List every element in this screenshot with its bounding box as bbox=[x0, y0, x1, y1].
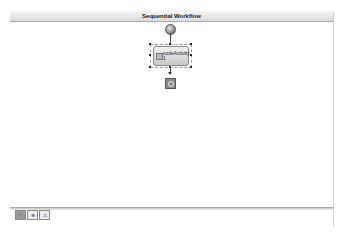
resize-handle[interactable] bbox=[190, 66, 192, 68]
resize-handle[interactable] bbox=[149, 43, 151, 45]
view-fault-handlers-button[interactable]: ⚠ bbox=[39, 210, 50, 220]
code-activity[interactable]: codeActivity 1 bbox=[153, 46, 189, 66]
right-border bbox=[333, 11, 334, 226]
activity-name-line2: 1 bbox=[163, 55, 166, 61]
activity-name-line1: codeActivity bbox=[163, 50, 190, 56]
activity-label: codeActivity 1 bbox=[163, 51, 190, 61]
view-workflow-button[interactable]: ⁞ bbox=[15, 210, 26, 220]
view-switcher: ⁞ ⊗ ⚠ bbox=[15, 210, 50, 220]
code-activity-icon bbox=[156, 53, 163, 60]
connector-arrow-icon bbox=[168, 72, 172, 75]
resize-handle[interactable] bbox=[149, 54, 151, 56]
resize-handle[interactable] bbox=[149, 66, 151, 68]
workflow-design-surface[interactable] bbox=[10, 11, 333, 208]
bottom-toolbar bbox=[10, 207, 333, 210]
resize-handle[interactable] bbox=[190, 54, 192, 56]
workflow-title-bar: Sequential Workflow bbox=[10, 11, 333, 22]
workflow-end-icon bbox=[165, 78, 176, 89]
view-cancel-handlers-button[interactable]: ⊗ bbox=[27, 210, 38, 220]
resize-handle[interactable] bbox=[190, 43, 192, 45]
resize-handle[interactable] bbox=[169, 43, 171, 45]
